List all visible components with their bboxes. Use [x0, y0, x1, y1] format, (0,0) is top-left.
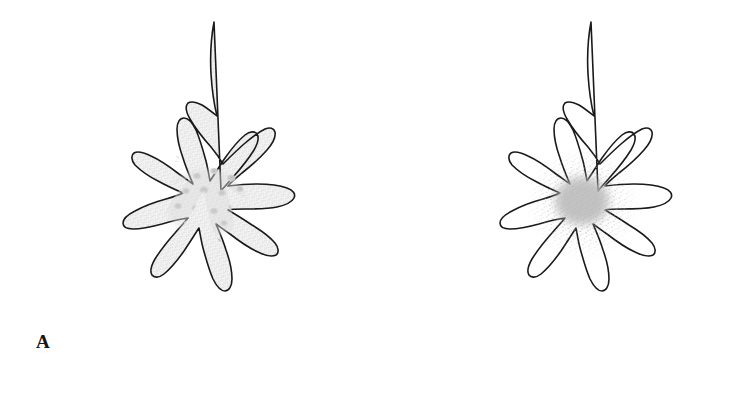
figure-root: A	[0, 0, 754, 398]
nucleus-region-b	[517, 137, 649, 269]
panel-a: A	[0, 0, 377, 398]
panel-b: B	[377, 0, 754, 398]
cell-diagram-a	[0, 0, 377, 398]
cell-outline-icon	[123, 22, 295, 291]
nucleus-core-icon	[555, 177, 609, 225]
cell-diagram-b	[377, 0, 754, 398]
cell-body-a	[123, 22, 295, 291]
panel-label-a: A	[36, 332, 50, 351]
